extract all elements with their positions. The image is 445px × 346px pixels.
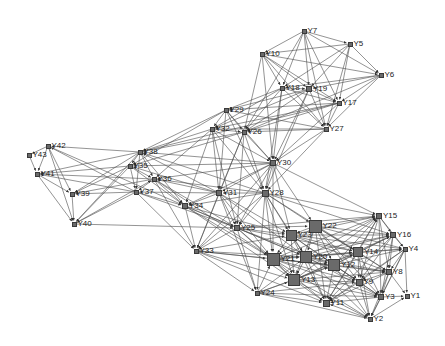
node-label-y40: Y40 — [78, 220, 92, 228]
node-y39[interactable] — [70, 192, 75, 197]
node-y18[interactable] — [280, 86, 285, 91]
node-label-y25: Y25 — [241, 224, 255, 232]
node-y3[interactable] — [378, 294, 384, 300]
node-label-y41: Y41 — [41, 170, 55, 178]
node-y17[interactable] — [337, 101, 342, 106]
node-label-y16: Y16 — [397, 231, 411, 239]
node-label-y18: Y18 — [286, 84, 300, 92]
node-y40[interactable] — [72, 222, 77, 227]
node-label-y31: Y31 — [223, 189, 237, 197]
node-y19[interactable] — [306, 86, 312, 92]
node-label-y13: Y13 — [301, 276, 315, 284]
node-y15[interactable] — [376, 213, 382, 219]
node-label-y10: Y10 — [266, 50, 280, 58]
node-y9[interactable] — [356, 279, 363, 286]
node-y25[interactable] — [234, 225, 240, 231]
node-label-y11: Y11 — [331, 299, 345, 307]
node-y31[interactable] — [216, 190, 222, 196]
node-y35[interactable] — [128, 164, 133, 169]
edge-Y25-Y13 — [237, 228, 289, 275]
node-y12[interactable] — [328, 259, 340, 271]
node-y1[interactable] — [405, 294, 410, 299]
edge-Y29-Y35 — [133, 110, 226, 164]
node-y23[interactable] — [286, 230, 297, 241]
edge-Y7-Y18 — [283, 31, 304, 85]
node-y11[interactable] — [323, 300, 330, 307]
edge-Y26-Y28 — [244, 132, 264, 189]
node-y26[interactable] — [242, 130, 247, 135]
node-label-y20: Y20 — [313, 253, 327, 261]
node-y14[interactable] — [353, 247, 363, 257]
node-y20[interactable] — [300, 251, 312, 263]
node-label-y29: Y29 — [230, 106, 244, 114]
node-label-y35: Y35 — [134, 162, 148, 170]
node-y10[interactable] — [260, 52, 265, 57]
node-label-y8: Y8 — [393, 268, 403, 276]
node-y37[interactable] — [134, 190, 139, 195]
node-label-y5: Y5 — [354, 40, 364, 48]
edge-Y30-Y38 — [143, 152, 273, 163]
node-label-y7: Y7 — [308, 27, 318, 35]
node-y38[interactable] — [138, 150, 143, 155]
node-y34[interactable] — [182, 203, 188, 209]
node-y6[interactable] — [379, 73, 384, 78]
node-label-y15: Y15 — [383, 212, 397, 220]
node-label-y26: Y26 — [248, 128, 262, 136]
node-y24[interactable] — [255, 291, 260, 296]
edge-Y17-Y27 — [328, 103, 339, 126]
node-label-y43: Y43 — [33, 151, 47, 159]
node-label-y14: Y14 — [364, 248, 378, 256]
node-y36[interactable] — [152, 177, 157, 182]
node-label-y12: Y12 — [341, 261, 355, 269]
node-y13[interactable] — [288, 274, 300, 286]
node-label-y27: Y27 — [330, 125, 344, 133]
node-label-y1: Y1 — [411, 292, 421, 300]
node-y28[interactable] — [262, 190, 269, 197]
node-y33[interactable] — [194, 249, 199, 254]
node-label-y34: Y34 — [189, 202, 203, 210]
node-label-y28: Y28 — [270, 189, 284, 197]
edge-Y28-Y33 — [199, 193, 265, 249]
node-label-y39: Y39 — [76, 190, 90, 198]
edge-Y7-Y26 — [246, 31, 304, 129]
node-label-y6: Y6 — [385, 71, 395, 79]
node-y29[interactable] — [224, 108, 229, 113]
edge-Y25-Y24 — [237, 228, 256, 290]
node-y43[interactable] — [27, 153, 32, 158]
node-label-y3: Y3 — [385, 293, 395, 301]
node-y5[interactable] — [348, 42, 353, 47]
edge-Y38-Y41 — [40, 152, 140, 173]
edge-Y30-Y15 — [273, 163, 375, 214]
network-graph: Y1Y2Y3Y4Y5Y6Y7Y8Y9Y10Y11Y12Y13Y14Y15Y16Y… — [0, 0, 445, 346]
node-label-y2: Y2 — [374, 315, 384, 323]
edge-Y18-Y28 — [266, 88, 282, 189]
node-label-y38: Y38 — [144, 148, 158, 156]
node-label-y19: Y19 — [313, 85, 327, 93]
node-label-y33: Y33 — [200, 247, 214, 255]
edge-Y4-Y1 — [405, 249, 407, 293]
node-y2[interactable] — [368, 317, 373, 322]
edge-Y29-Y31 — [219, 110, 226, 189]
node-y4[interactable] — [403, 247, 408, 252]
node-y27[interactable] — [324, 127, 329, 132]
node-label-y23: Y23 — [298, 231, 312, 239]
edge-Y28-Y25 — [239, 193, 265, 225]
node-y41[interactable] — [35, 172, 40, 177]
node-y30[interactable] — [270, 160, 276, 166]
node-label-y36: Y36 — [158, 175, 172, 183]
node-y16[interactable] — [390, 232, 396, 238]
node-label-y21: Y21 — [281, 255, 295, 263]
node-y8[interactable] — [386, 269, 392, 275]
node-label-y4: Y4 — [409, 245, 419, 253]
node-y42[interactable] — [46, 144, 51, 149]
edge-Y5-Y6 — [350, 44, 379, 73]
node-y7[interactable] — [302, 29, 307, 34]
node-label-y32: Y32 — [216, 125, 230, 133]
node-label-y42: Y42 — [52, 142, 66, 150]
node-y21[interactable] — [267, 253, 280, 266]
node-label-y24: Y24 — [261, 289, 275, 297]
edge-Y10-Y17 — [262, 54, 336, 101]
node-label-y17: Y17 — [343, 99, 357, 107]
node-y32[interactable] — [210, 127, 215, 132]
edge-Y10-Y19 — [262, 54, 306, 87]
